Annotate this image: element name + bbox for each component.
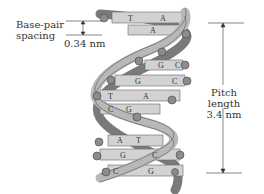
base-pair-spacing-marker [66, 21, 102, 35]
svg-text:T: T [136, 136, 141, 145]
svg-text:A: A [143, 92, 149, 101]
svg-text:G: G [158, 61, 164, 70]
svg-text:G: G [126, 105, 132, 114]
pitch-length-label: Pitch length 3.4 nm [196, 87, 252, 120]
svg-text:T: T [128, 14, 133, 23]
svg-text:C: C [108, 105, 113, 114]
svg-text:G: G [135, 77, 141, 86]
svg-text:C: C [152, 151, 157, 160]
svg-text:C: C [113, 167, 118, 176]
svg-text:A: A [150, 26, 156, 35]
svg-text:T: T [108, 92, 113, 101]
svg-text:A: A [160, 14, 166, 23]
base-pair-spacing-value: 0.34 nm [64, 38, 105, 49]
svg-text:A: A [117, 136, 123, 145]
svg-text:C: C [172, 77, 177, 86]
base-pair-spacing-label: Base-pair spacing [16, 19, 64, 41]
svg-text:G: G [148, 167, 154, 176]
svg-text:C: C [175, 61, 180, 70]
svg-text:G: G [120, 151, 126, 160]
